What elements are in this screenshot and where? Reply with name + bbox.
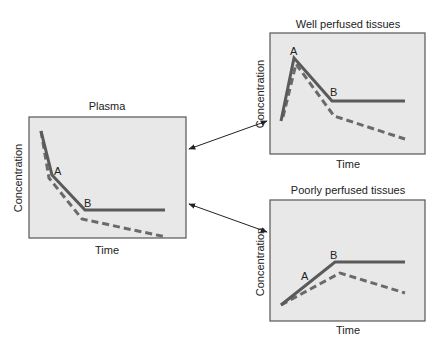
plasma-point-b: B bbox=[84, 197, 91, 209]
poorly-perfused-point-a: A bbox=[301, 270, 309, 282]
well-perfused-y-label: Concentration bbox=[254, 60, 266, 129]
plasma-y-label: Concentration bbox=[12, 144, 24, 213]
well-perfused-point-b: B bbox=[330, 86, 337, 98]
poorly-perfused-point-b: B bbox=[330, 249, 337, 261]
poorly-perfused-y-label: Concentration bbox=[254, 228, 266, 297]
well-perfused-title: Well perfused tissues bbox=[296, 18, 401, 30]
plasma-x-label: Time bbox=[95, 244, 119, 256]
poorly-perfused-title: Poorly perfused tissues bbox=[291, 184, 406, 196]
poorly-perfused-panel: Poorly perfused tissues A B Time Concent… bbox=[254, 184, 425, 336]
plasma-point-a: A bbox=[54, 165, 62, 177]
well-perfused-panel: Well perfused tissues A B Time Concentra… bbox=[254, 18, 425, 170]
plasma-title: Plasma bbox=[89, 100, 127, 112]
poorly-perfused-x-label: Time bbox=[336, 324, 360, 336]
diagram-canvas: Plasma A B Time Concentration Well perfu… bbox=[0, 0, 444, 352]
plasma-well-perfused-arrow bbox=[189, 121, 267, 149]
plasma-poorly-perfused-arrow bbox=[189, 204, 267, 232]
plasma-panel: Plasma A B Time Concentration bbox=[12, 100, 186, 256]
well-perfused-x-label: Time bbox=[336, 158, 360, 170]
well-perfused-point-a: A bbox=[290, 45, 298, 57]
